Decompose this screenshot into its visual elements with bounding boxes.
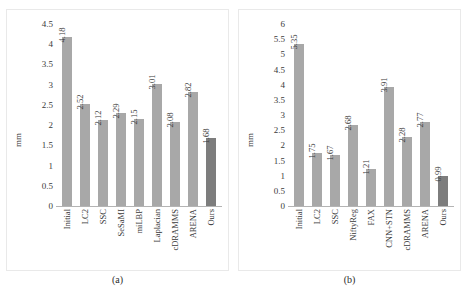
bar-slot: 5.35 bbox=[290, 24, 308, 206]
bar-value-label: 1.75 bbox=[308, 143, 317, 158]
bar[interactable]: 2.15 bbox=[134, 119, 145, 206]
x-tick-label: ARENA bbox=[421, 209, 430, 238]
y-tick-label: 3.5 bbox=[42, 60, 53, 69]
x-tick-label: CNN+STN bbox=[385, 209, 394, 248]
bar-slot: 2.12 bbox=[94, 24, 112, 206]
y-tick-label: 5 bbox=[281, 50, 286, 59]
x-tick-slot: Initial bbox=[58, 208, 76, 266]
x-tick-label: miLBP bbox=[135, 209, 144, 234]
x-tick-label: Laplacian bbox=[153, 209, 162, 243]
bar-value-label: 1.21 bbox=[362, 160, 371, 175]
bar-value-label: 3.01 bbox=[148, 75, 157, 90]
bar-slot: 2.82 bbox=[184, 24, 202, 206]
bar-slot: 3.01 bbox=[148, 24, 166, 206]
bar-slot: 2.52 bbox=[76, 24, 94, 206]
bar[interactable]: 5.35 bbox=[294, 44, 305, 206]
x-tick-label: SeSaMI bbox=[117, 209, 126, 236]
bar-slot: 3.91 bbox=[380, 24, 398, 206]
bar[interactable]: 2.68 bbox=[348, 125, 359, 206]
x-tick-slot: SSC bbox=[94, 208, 112, 266]
x-tick-label: Ours bbox=[207, 209, 216, 226]
bar-slot: 2.15 bbox=[130, 24, 148, 206]
bar-slot: 2.68 bbox=[344, 24, 362, 206]
y-tick-label: 1.5 bbox=[42, 141, 53, 150]
bar[interactable]: 4.18 bbox=[62, 37, 73, 206]
x-axis-ticks-b: InitialLC2SSCNiftyRegFAXCNN+STNcDRAMMSAR… bbox=[288, 208, 454, 266]
y-tick-label: 2 bbox=[281, 141, 286, 150]
x-tick-slot: SSC bbox=[326, 208, 344, 266]
x-tick-label: Ours bbox=[439, 209, 448, 226]
bar-value-label: 2.29 bbox=[112, 104, 121, 119]
plot-wrapper-b: mm 65.554.543.532.521.510.50 5.351.751.6… bbox=[239, 10, 460, 270]
x-tick-label: cDRAMMS bbox=[171, 209, 180, 251]
x-tick-slot: cDRAMMS bbox=[166, 208, 184, 266]
bar[interactable]: 1.75 bbox=[312, 153, 323, 206]
bar[interactable]: 2.82 bbox=[188, 92, 199, 206]
x-tick-label: LC2 bbox=[81, 209, 90, 224]
plot-area-b: 5.351.751.672.681.213.912.282.770.99 bbox=[288, 24, 454, 207]
bar-slot: 4.18 bbox=[58, 24, 76, 206]
x-tick-slot: cDRAMMS bbox=[398, 208, 416, 266]
bar-slot: 2.77 bbox=[416, 24, 434, 206]
y-tick-label: 0.5 bbox=[274, 186, 285, 195]
y-tick-label: 1 bbox=[281, 171, 286, 180]
x-tick-label: Initial bbox=[295, 209, 304, 229]
bar[interactable]: 2.28 bbox=[402, 137, 413, 206]
bar[interactable]: 2.52 bbox=[80, 104, 91, 206]
y-tick-label: 4 bbox=[49, 40, 54, 49]
x-tick-label: SSC bbox=[331, 209, 340, 224]
y-tick-label: 2.5 bbox=[274, 126, 285, 135]
x-tick-label: LC2 bbox=[313, 209, 322, 224]
chart-panel-a: mm 4.543.532.521.510.50 4.182.522.122.29… bbox=[6, 9, 229, 271]
bar-value-label: 2.15 bbox=[130, 110, 139, 125]
bar[interactable]: 0.99 bbox=[438, 176, 449, 206]
y-tick-label: 6 bbox=[281, 20, 286, 29]
figure-container: mm 4.543.532.521.510.50 4.182.522.122.29… bbox=[0, 0, 467, 299]
y-axis-title-a: mm bbox=[13, 133, 23, 147]
bar-value-label: 2.28 bbox=[398, 127, 407, 142]
bar-slot: 1.68 bbox=[202, 24, 220, 206]
y-tick-label: 1 bbox=[49, 161, 54, 170]
plot-wrapper-a: mm 4.543.532.521.510.50 4.182.522.122.29… bbox=[7, 10, 228, 270]
y-axis-ticks-a: 4.543.532.521.510.50 bbox=[23, 24, 53, 206]
y-tick-label: 2.5 bbox=[42, 100, 53, 109]
bar-value-label: 3.91 bbox=[380, 78, 389, 93]
bar-value-label: 0.99 bbox=[434, 167, 443, 182]
y-tick-label: 0.5 bbox=[42, 181, 53, 190]
x-tick-slot: SeSaMI bbox=[112, 208, 130, 266]
bar-group-a: 4.182.522.122.292.153.012.082.821.68 bbox=[56, 24, 222, 206]
x-axis-ticks-a: InitialLC2SSCSeSaMImiLBPLaplaciancDRAMMS… bbox=[56, 208, 222, 266]
bar[interactable]: 1.21 bbox=[366, 169, 377, 206]
bar[interactable]: 1.67 bbox=[330, 155, 341, 206]
chart-panel-b: mm 65.554.543.532.521.510.50 5.351.751.6… bbox=[238, 9, 461, 271]
bar-value-label: 5.35 bbox=[290, 34, 299, 49]
bar[interactable]: 1.68 bbox=[206, 138, 217, 206]
x-tick-label: Initial bbox=[63, 209, 72, 229]
bar[interactable]: 2.29 bbox=[116, 113, 127, 206]
bar-slot: 2.29 bbox=[112, 24, 130, 206]
x-tick-slot: FAX bbox=[362, 208, 380, 266]
bar[interactable]: 2.12 bbox=[98, 120, 109, 206]
bar-slot: 1.21 bbox=[362, 24, 380, 206]
x-tick-label: ARENA bbox=[189, 209, 198, 238]
bar-value-label: 2.08 bbox=[166, 112, 175, 127]
bar-slot: 2.08 bbox=[166, 24, 184, 206]
y-axis-title-b: mm bbox=[245, 133, 255, 147]
x-tick-slot: Ours bbox=[434, 208, 452, 266]
x-tick-slot: miLBP bbox=[130, 208, 148, 266]
bar-value-label: 2.68 bbox=[344, 115, 353, 130]
y-tick-label: 3 bbox=[49, 80, 54, 89]
x-tick-slot: ARENA bbox=[416, 208, 434, 266]
x-tick-slot: LC2 bbox=[76, 208, 94, 266]
bar-value-label: 2.52 bbox=[76, 95, 85, 110]
panel-subcaption-b: (b) bbox=[238, 274, 461, 285]
bar-slot: 1.67 bbox=[326, 24, 344, 206]
x-tick-slot: LC2 bbox=[308, 208, 326, 266]
bar[interactable]: 3.91 bbox=[384, 87, 395, 206]
y-tick-label: 1.5 bbox=[274, 156, 285, 165]
bar[interactable]: 3.01 bbox=[152, 84, 163, 206]
bar[interactable]: 2.08 bbox=[170, 122, 181, 206]
y-tick-label: 0 bbox=[49, 202, 54, 211]
bar[interactable]: 2.77 bbox=[420, 122, 431, 206]
bar-value-label: 2.12 bbox=[94, 111, 103, 126]
